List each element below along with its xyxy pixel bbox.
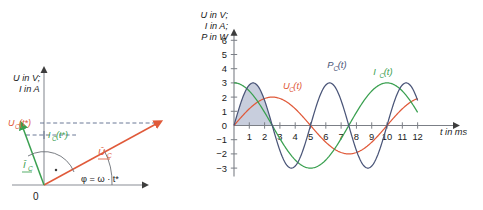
y-tick-label: 4 — [222, 63, 227, 74]
y-tick-label: 3 — [222, 77, 227, 88]
x-tick-label: 4 — [293, 131, 298, 142]
series-label-argument: (t) — [293, 80, 302, 91]
time-graph-panel: U in V; I in A; P in W t in ms 123456789… — [182, 0, 483, 210]
phasor-origin-label: 0 — [33, 191, 39, 202]
plot-layer: 1234567891011126543210−1−2−3UC(t)IC(t)PC… — [216, 35, 454, 177]
right-angle-dot — [55, 169, 58, 172]
series-label-argument: (t) — [338, 59, 347, 70]
voltage-projection-symbol: U — [8, 118, 15, 128]
phasor-diagram-panel: U in V; I in A 0 φ = ω · t* — [0, 0, 182, 210]
series-label-argument: (t) — [384, 66, 393, 77]
x-tick-label: 1 — [247, 131, 252, 142]
current-phasor-arrow — [23, 128, 44, 185]
phasor-svg: U in V; I in A 0 φ = ω · t* — [0, 0, 182, 210]
graph-ylabel-line2: I in A; — [205, 21, 229, 31]
y-tick-label: 0 — [222, 120, 227, 131]
series-label-symbol: I — [373, 66, 376, 77]
figure-root: U in V; I in A 0 φ = ω · t* — [0, 0, 483, 210]
current-projection-argument: (t*) — [56, 130, 68, 140]
voltage-projection-label: U C (t*) — [8, 118, 31, 130]
y-tick-label: 2 — [222, 92, 227, 103]
angle-phi-label: φ = ω · t* — [81, 174, 119, 184]
current-phasor-subscript: C — [28, 165, 33, 172]
y-tick-label: 6 — [222, 35, 227, 46]
x-tick-label: 2 — [262, 131, 267, 142]
voltage-projection-argument: (t*) — [19, 118, 31, 128]
series-label-u: UC(t) — [283, 80, 302, 93]
voltage-phasor-symbol: Û — [98, 146, 105, 157]
x-tick-label: 11 — [397, 131, 407, 142]
series-label-p: PC(t) — [327, 59, 346, 72]
y-tick-label: 1 — [222, 106, 227, 117]
series-label-i: IC(t) — [373, 66, 392, 79]
y-tick-label: −3 — [216, 163, 227, 174]
y-tick-label: 5 — [222, 49, 227, 60]
current-projection-symbol: I — [48, 130, 51, 140]
graph-ylabel-line1: U in V; — [201, 10, 229, 20]
current-projection-label: I C (t*) — [48, 130, 68, 142]
phasor-axis-label-line1: U in V; — [13, 73, 41, 83]
x-tick-label: 12 — [412, 131, 422, 142]
x-tick-label: 8 — [354, 131, 359, 142]
phasor-axis-label-line2: I in A — [19, 84, 40, 94]
voltage-phasor-subscript: C — [107, 152, 112, 159]
graph-xlabel: t in ms — [440, 127, 467, 137]
time-graph-svg: U in V; I in A; P in W t in ms 123456789… — [182, 0, 483, 210]
y-tick-label: −1 — [216, 134, 227, 145]
y-tick-label: −2 — [216, 148, 227, 159]
current-phasor-label: Î C — [22, 159, 33, 172]
current-phasor-symbol: Î — [23, 159, 27, 170]
